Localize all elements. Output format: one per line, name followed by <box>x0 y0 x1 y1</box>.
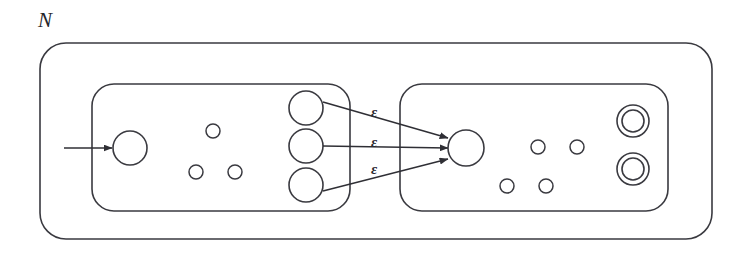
n1-inner-dot <box>206 124 220 138</box>
epsilon-label-bottom: ε <box>371 162 377 177</box>
n2-start-state <box>448 130 484 166</box>
n1-inner-dot <box>228 165 242 179</box>
n2-accept-state <box>617 153 649 185</box>
n1-former-accept-state <box>289 91 323 125</box>
outer-machine-label: N <box>38 10 52 31</box>
n2-inner-dot <box>531 140 545 154</box>
n2-inner-dot <box>500 179 514 193</box>
figure-canvas <box>0 0 745 261</box>
n2-accept-state-inner-ring <box>622 110 644 132</box>
nfa-concatenation-figure: N ε ε ε <box>0 0 745 261</box>
epsilon-label-top: ε <box>371 105 377 120</box>
n2-inner-dot <box>539 179 553 193</box>
epsilon-label-middle: ε <box>371 135 377 150</box>
n1-former-accept-state <box>289 129 323 163</box>
n1-former-accept-state <box>289 168 323 202</box>
n2-inner-dot <box>570 140 584 154</box>
n2-accept-state <box>617 105 649 137</box>
n1-inner-dot <box>189 165 203 179</box>
n1-start-state <box>113 131 147 165</box>
n2-accept-state-inner-ring <box>622 158 644 180</box>
